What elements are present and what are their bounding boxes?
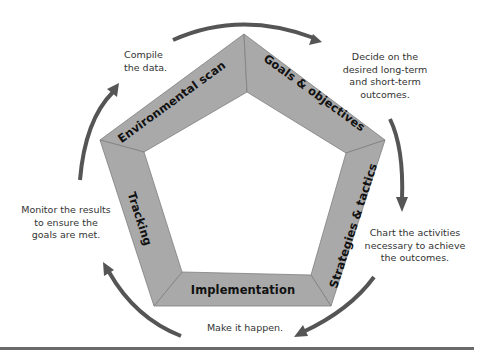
note-environmental-scan: Compile the data. (124, 49, 167, 74)
label-implementation: Implementation (191, 283, 295, 297)
note-line: to ensure the (16, 217, 116, 230)
note-tracking: Monitor the results to ensure the goals … (16, 204, 116, 242)
note-goals-objectives: Decide on the desired long-term and shor… (325, 51, 445, 101)
arrow-goals-to-strategies-head (396, 197, 408, 212)
note-line: Make it happen. (200, 322, 290, 335)
note-line: Chart the activities (360, 227, 470, 240)
note-line: and short-term (325, 76, 445, 89)
arrow-goals-to-strategies (390, 119, 402, 200)
note-line: the outcomes. (360, 252, 470, 265)
note-line: outcomes. (325, 89, 445, 102)
note-line: necessary to achieve (360, 240, 470, 253)
note-implementation: Make it happen. (200, 322, 290, 335)
note-strategies-tactics: Chart the activities necessary to achiev… (360, 227, 470, 265)
note-line: desired long-term (325, 64, 445, 77)
note-line: Decide on the (325, 51, 445, 64)
note-line: the data. (124, 62, 167, 75)
note-line: Monitor the results (16, 204, 116, 217)
note-line: goals are met. (16, 229, 116, 242)
note-line: Compile (124, 49, 167, 62)
bottom-divider (0, 347, 474, 350)
